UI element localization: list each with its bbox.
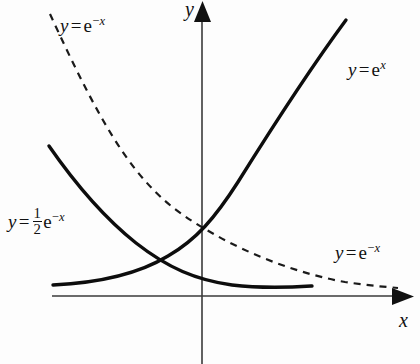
label-base: e — [372, 59, 381, 80]
label-equals: = — [17, 211, 32, 232]
label-lhs: y — [348, 59, 357, 80]
label-lhs: y — [8, 211, 17, 232]
label-lhs: y — [60, 15, 69, 36]
axes-group — [52, 1, 414, 364]
label-exponent: x — [380, 58, 386, 72]
y-axis-arrowhead-icon — [194, 1, 211, 22]
label-lhs: y — [335, 242, 344, 263]
label-base: e — [43, 211, 52, 232]
curve-exp-positive — [53, 20, 346, 285]
exponent-var: x — [99, 14, 105, 28]
label-equals: = — [69, 15, 84, 36]
exponent-sign: − — [52, 210, 59, 224]
label-base: e — [84, 15, 93, 36]
fraction-numerator: 1 — [33, 206, 43, 222]
label-half-exp-negative: y=12e−x — [8, 206, 65, 237]
exponent-var: x — [380, 58, 386, 72]
label-equals: = — [357, 59, 372, 80]
label-base: e — [359, 242, 368, 263]
x-axis-arrowhead-icon — [392, 288, 414, 305]
label-exponent: −x — [367, 241, 380, 255]
label-equals: = — [344, 242, 359, 263]
fraction-denominator: 2 — [33, 222, 43, 237]
one-half-fraction: 12 — [33, 206, 43, 237]
label-exponent: −x — [52, 210, 65, 224]
x-axis-label: x — [399, 309, 408, 332]
label-exponent: −x — [92, 14, 105, 28]
label-exp-negative-right: y=e−x — [335, 243, 380, 262]
plot-canvas — [0, 0, 420, 364]
y-axis-label: y — [185, 0, 194, 21]
exponential-functions-figure: y x y=e−x y=ex y=12e−x y=e−x — [0, 0, 420, 364]
label-exp-positive: y=ex — [348, 60, 386, 79]
exponent-var: x — [374, 241, 380, 255]
label-exp-negative-top: y=e−x — [60, 16, 105, 35]
curve-half-exp-negative — [49, 146, 312, 287]
exponent-var: x — [59, 210, 65, 224]
